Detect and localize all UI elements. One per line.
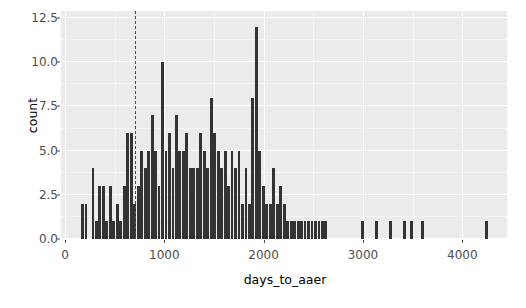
histogram-bar: [154, 151, 157, 239]
histogram-bar: [130, 133, 133, 239]
x-tick-label: 1000: [134, 248, 194, 262]
histogram-bar: [105, 221, 108, 239]
x-tick-mark: [65, 240, 66, 243]
histogram-bar: [85, 204, 88, 239]
y-tick-label: 5.0: [16, 144, 58, 158]
histogram-bar: [251, 98, 254, 239]
gridline-major-vertical: [462, 11, 463, 239]
histogram-bar: [421, 221, 424, 239]
histogram-bar: [389, 221, 392, 239]
y-tick-label: 12.5: [16, 11, 58, 25]
gridline-major-vertical: [65, 11, 66, 239]
histogram-bar: [304, 221, 307, 239]
x-tick-mark: [264, 240, 265, 243]
histogram-bar: [231, 151, 234, 239]
histogram-bar: [147, 151, 150, 239]
y-tick-label: 10.0: [16, 55, 58, 69]
histogram-bar: [175, 115, 178, 239]
x-tick-mark: [363, 240, 364, 243]
x-tick-label: 2000: [234, 248, 294, 262]
histogram-bar: [213, 133, 216, 239]
histogram-bar: [109, 186, 112, 239]
histogram-bar: [192, 168, 195, 239]
y-tick-mark: [57, 150, 60, 151]
histogram-bar: [217, 151, 220, 239]
histogram-bar: [196, 168, 199, 239]
x-tick-mark: [462, 240, 463, 243]
histogram-bar: [410, 221, 413, 239]
histogram-bar: [81, 204, 84, 239]
histogram-bar: [403, 221, 406, 239]
y-tick-mark: [57, 239, 60, 240]
histogram-bar: [324, 221, 327, 239]
x-tick-label: 4000: [432, 248, 492, 262]
histogram-bar: [144, 168, 147, 239]
histogram-bar: [227, 186, 230, 239]
histogram-bar: [158, 186, 161, 239]
histogram-chart: count 0.02.55.07.510.012.5 0100020003000…: [0, 0, 526, 308]
histogram-bar: [262, 186, 265, 239]
histogram-bar: [95, 221, 98, 239]
histogram-bar: [182, 151, 185, 239]
histogram-bar: [151, 115, 154, 239]
histogram-bar: [185, 133, 188, 239]
histogram-bar: [241, 204, 244, 239]
gridline-major-horizontal: [61, 61, 507, 62]
histogram-bar: [92, 168, 95, 239]
histogram-bar: [290, 221, 293, 239]
histogram-bar: [210, 98, 213, 239]
histogram-bar: [314, 221, 317, 239]
histogram-bar: [102, 186, 105, 239]
histogram-bar: [269, 204, 272, 239]
histogram-bar: [224, 151, 227, 239]
gridline-minor-horizontal: [61, 128, 507, 129]
gridline-major-horizontal: [61, 105, 507, 106]
histogram-bar: [140, 151, 143, 239]
histogram-bar: [361, 221, 364, 239]
histogram-bar: [485, 221, 488, 239]
y-tick-mark: [57, 194, 60, 195]
y-tick-label: 0.0: [16, 232, 58, 246]
histogram-bar: [126, 133, 129, 239]
histogram-bar: [172, 168, 175, 239]
histogram-bar: [311, 221, 314, 239]
histogram-bar: [272, 168, 275, 239]
histogram-bar: [265, 204, 268, 239]
histogram-bar: [245, 168, 248, 239]
histogram-bar: [112, 221, 115, 239]
gridline-major-horizontal: [61, 17, 507, 18]
x-tick-label: 3000: [333, 248, 393, 262]
gridline-minor-horizontal: [61, 83, 507, 84]
y-tick-mark: [57, 18, 60, 19]
histogram-bar: [279, 186, 282, 239]
histogram-bar: [189, 168, 192, 239]
histogram-bar: [203, 151, 206, 239]
y-tick-mark: [57, 62, 60, 63]
x-tick-label: 0: [35, 248, 95, 262]
histogram-bar: [234, 168, 237, 239]
histogram-bar: [199, 133, 202, 239]
histogram-bar: [255, 27, 258, 239]
y-tick-label: 2.5: [16, 188, 58, 202]
histogram-bar: [98, 186, 101, 239]
histogram-bar: [165, 151, 168, 239]
histogram-bar: [137, 186, 140, 239]
gridline-minor-horizontal: [61, 39, 507, 40]
histogram-bar: [220, 168, 223, 239]
histogram-bar: [276, 204, 279, 239]
gridline-minor-vertical: [413, 11, 414, 239]
histogram-bar: [293, 221, 296, 239]
histogram-bar: [286, 221, 289, 239]
histogram-bar: [283, 204, 286, 239]
histogram-bar: [321, 221, 324, 239]
histogram-bar: [161, 62, 164, 239]
x-axis-title: days_to_aaer: [65, 272, 505, 287]
plot-panel: [61, 11, 507, 239]
histogram-bar: [375, 221, 378, 239]
histogram-bar: [119, 221, 122, 239]
histogram-bar: [318, 221, 321, 239]
gridline-minor-vertical: [313, 11, 314, 239]
histogram-bar: [116, 204, 119, 239]
histogram-bar: [248, 204, 251, 239]
histogram-bar: [178, 151, 181, 239]
